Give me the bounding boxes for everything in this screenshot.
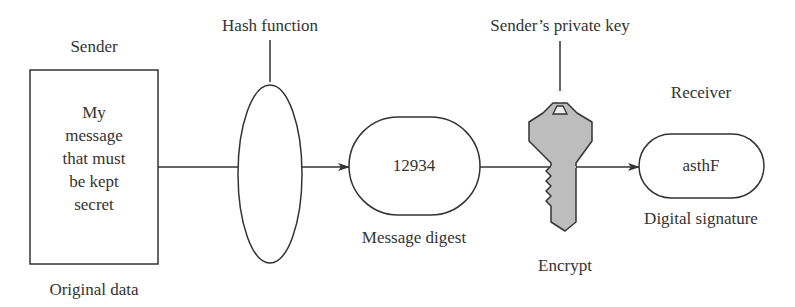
digital-signature-value: asthF [683,156,720,176]
receiver-heading: Receiver [671,83,731,103]
original-data-text: My message that must be kept secret [30,101,158,216]
data-line: be kept [30,170,158,193]
message-digest-caption: Message digest [362,228,466,248]
private-key-label: Sender’s private key [490,16,629,36]
sender-heading: Sender [70,37,117,57]
hash-function-ellipse [238,85,302,263]
data-line: secret [30,193,158,216]
digital-signature-caption: Digital signature [644,209,758,229]
message-digest-value: 12934 [393,156,436,176]
original-data-caption: Original data [49,280,138,300]
data-line: that must [30,147,158,170]
encrypt-caption: Encrypt [538,256,592,276]
data-line: My [30,101,158,124]
hash-function-label: Hash function [222,16,318,36]
data-line: message [30,124,158,147]
